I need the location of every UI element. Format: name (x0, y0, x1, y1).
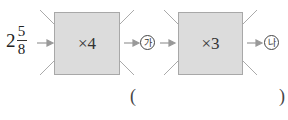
machine-multiply-4: ×4 (54, 12, 120, 75)
answer-close-paren: ) (279, 86, 285, 107)
circled-ga-label: 가 (140, 35, 155, 50)
answer-blank[interactable] (145, 88, 275, 108)
machine-multiply-3: ×3 (178, 12, 243, 75)
answer-open-paren: ( (130, 86, 136, 107)
denominator: 8 (18, 42, 26, 57)
fraction: 5 8 (17, 24, 27, 57)
whole-part: 2 (6, 30, 16, 52)
machine-label: ×4 (78, 34, 96, 54)
numerator: 5 (18, 24, 26, 39)
start-mixed-number: 2 5 8 (6, 24, 27, 57)
machine-label: ×3 (201, 34, 219, 54)
circled-na-label: 나 (264, 35, 279, 50)
